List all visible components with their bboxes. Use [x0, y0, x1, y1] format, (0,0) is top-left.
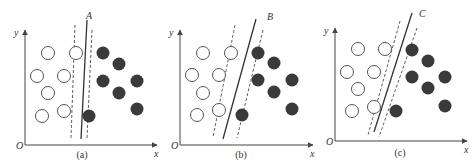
open-point — [191, 109, 204, 122]
open-point — [341, 66, 354, 79]
x-axis-label: x — [309, 148, 315, 159]
open-point — [368, 66, 381, 79]
open-point — [346, 105, 359, 118]
open-point — [70, 47, 83, 60]
open-point — [197, 87, 210, 100]
open-point — [58, 70, 71, 83]
origin-label: O — [326, 136, 333, 147]
open-point — [213, 69, 226, 82]
open-point — [352, 83, 365, 96]
filled-point — [83, 110, 96, 123]
x-axis-label: x — [153, 148, 159, 159]
panel-c: O x y C (c) — [323, 8, 469, 159]
filled-class-points — [83, 47, 144, 123]
origin-label: O — [171, 140, 178, 151]
y-axis-label: y — [168, 27, 174, 38]
boundary-label-b: B — [267, 11, 273, 22]
margin-line-left — [71, 25, 75, 138]
open-point — [368, 101, 381, 114]
svm-margin-diagram: O x y A (a) O x y B (b) O x y C — [0, 0, 475, 166]
y-axis-label: y — [323, 25, 329, 36]
filled-point — [268, 57, 281, 70]
filled-point — [252, 47, 265, 60]
filled-point — [286, 74, 299, 87]
y-axis-label: y — [13, 27, 19, 38]
open-point — [352, 43, 365, 56]
filled-point — [286, 103, 299, 116]
filled-point — [268, 86, 281, 99]
open-point — [225, 47, 238, 60]
panel-caption-c: (c) — [394, 147, 405, 159]
filled-point — [439, 100, 452, 113]
filled-point — [422, 55, 435, 68]
origin-label: O — [16, 140, 23, 151]
filled-point — [236, 109, 249, 122]
open-point — [31, 70, 44, 83]
open-class-points — [31, 47, 83, 123]
filled-point — [406, 44, 419, 57]
filled-point — [97, 75, 110, 88]
filled-point — [113, 58, 126, 71]
open-point — [58, 105, 71, 118]
panel-a: O x y A (a) — [13, 10, 159, 161]
panel-caption-a: (a) — [76, 149, 87, 161]
open-point — [213, 104, 226, 117]
filled-point — [390, 105, 403, 118]
open-point — [379, 43, 392, 56]
filled-point — [113, 87, 126, 100]
filled-point — [252, 74, 265, 87]
open-point — [186, 69, 199, 82]
filled-point — [422, 82, 435, 95]
open-point — [36, 110, 49, 123]
open-point — [42, 87, 55, 100]
filled-point — [406, 71, 419, 84]
filled-point — [131, 103, 144, 116]
boundary-label-c: C — [419, 8, 426, 19]
boundary-label-a: A — [85, 10, 93, 21]
open-point — [42, 47, 55, 60]
panel-caption-b: (b) — [235, 149, 247, 161]
open-point — [197, 47, 210, 60]
filled-point — [97, 47, 110, 60]
open-class-points — [186, 47, 238, 122]
filled-point — [439, 71, 452, 84]
panel-b: O x y B (b) — [168, 11, 315, 161]
x-axis-label: x — [463, 144, 469, 155]
filled-point — [131, 75, 144, 88]
